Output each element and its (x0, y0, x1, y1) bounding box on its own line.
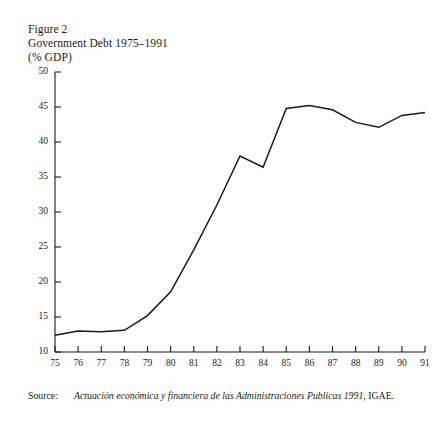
x-tick-label: 84 (252, 358, 274, 368)
x-axis-ticks (55, 346, 425, 352)
source-citation-rest: , IGAE. (363, 390, 394, 401)
x-tick-label: 82 (206, 358, 228, 368)
source-citation-title: Actuación económica y financiera de las … (74, 390, 363, 401)
x-tick-label: 79 (137, 358, 159, 368)
x-tick-label: 89 (368, 358, 390, 368)
y-tick-label: 20 (24, 276, 48, 286)
y-tick-label: 15 (24, 311, 48, 321)
x-tick-label: 76 (67, 358, 89, 368)
y-tick-label: 40 (24, 136, 48, 146)
x-tick-label: 91 (414, 358, 436, 368)
x-tick-label: 80 (160, 358, 182, 368)
x-tick-label: 83 (229, 358, 251, 368)
x-tick-label: 88 (345, 358, 367, 368)
debt-series-line (55, 106, 425, 336)
x-tick-label: 77 (90, 358, 112, 368)
x-tick-label: 81 (183, 358, 205, 368)
chart-figure: 101520253035404550 757677787980818283848… (0, 0, 443, 424)
source-citation: Actuación económica y financiera de las … (74, 390, 428, 403)
x-tick-label: 86 (298, 358, 320, 368)
x-tick-label: 87 (322, 358, 344, 368)
y-tick-label: 10 (24, 346, 48, 356)
y-tick-label: 45 (24, 101, 48, 111)
x-tick-label: 75 (44, 358, 66, 368)
source-label: Source: (28, 390, 74, 403)
y-tick-label: 25 (24, 241, 48, 251)
x-tick-label: 90 (391, 358, 413, 368)
source-note: Source: Actuación económica y financiera… (28, 390, 428, 403)
y-axis-ticks (55, 72, 61, 352)
y-tick-label: 30 (24, 206, 48, 216)
y-tick-label: 50 (24, 66, 48, 76)
x-tick-label: 78 (113, 358, 135, 368)
x-tick-label: 85 (275, 358, 297, 368)
y-tick-label: 35 (24, 171, 48, 181)
